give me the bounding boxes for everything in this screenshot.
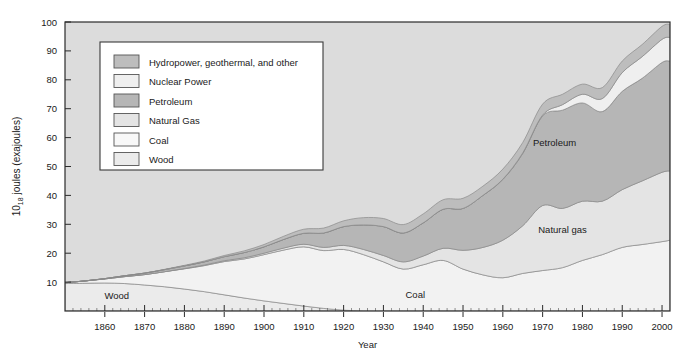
legend-swatch — [114, 94, 139, 107]
legend-label: Wood — [149, 154, 174, 165]
annotation-petroleum: Petroleum — [533, 137, 576, 148]
legend-swatch — [114, 114, 139, 127]
x-tick-label: 1930 — [373, 321, 394, 332]
x-tick-label: 1870 — [134, 321, 155, 332]
x-tick-label: 1980 — [572, 321, 593, 332]
x-tick-label: 1910 — [293, 321, 314, 332]
x-tick-label: 1900 — [253, 321, 274, 332]
y-tick-label: 50 — [46, 161, 57, 172]
y-tick-label: 80 — [46, 74, 57, 85]
y-tick-label: 100 — [41, 17, 57, 28]
y-axis-title-exponent: 18 — [17, 197, 24, 205]
y-tick-label: 60 — [46, 132, 57, 143]
y-tick-label: 40 — [46, 190, 57, 201]
y-axis-title-rest: joules (exajoules) — [11, 117, 22, 198]
legend-swatch — [114, 75, 139, 88]
x-tick-label: 1950 — [452, 321, 473, 332]
x-axis-title: Year — [358, 339, 377, 350]
y-tick-label: 90 — [46, 45, 57, 56]
legend-item[interactable]: Natural Gas — [114, 114, 200, 127]
legend-label: Nuclear Power — [149, 76, 211, 87]
annotation-wood: Wood — [104, 290, 129, 301]
x-tick-label: 1880 — [174, 321, 195, 332]
chart-page: 1020304050607080901001860187018801890190… — [0, 0, 694, 358]
legend-swatch — [114, 133, 139, 146]
legend-label: Coal — [149, 135, 169, 146]
x-tick-label: 1960 — [492, 321, 513, 332]
x-tick-label: 1940 — [413, 321, 434, 332]
y-tick-label: 30 — [46, 219, 57, 230]
annotation-coal: Coal — [405, 289, 425, 300]
y-axis-title-base: 10 — [11, 205, 22, 217]
legend-label: Petroleum — [149, 96, 192, 107]
legend-swatch — [114, 153, 139, 166]
legend: Hydropower, geothermal, and otherNuclear… — [100, 42, 323, 170]
y-tick-label: 20 — [46, 248, 57, 259]
x-tick-label: 1920 — [333, 321, 354, 332]
y-tick-label: 10 — [46, 277, 57, 288]
legend-swatch — [114, 55, 139, 68]
x-tick-label: 1860 — [94, 321, 115, 332]
legend-item[interactable]: Petroleum — [114, 94, 192, 107]
y-tick-label: 70 — [46, 103, 57, 114]
legend-item[interactable]: Nuclear Power — [114, 75, 211, 88]
legend-label: Hydropower, geothermal, and other — [149, 57, 298, 68]
legend-label: Natural Gas — [149, 115, 200, 126]
annotation-natural-gas: Natural gas — [538, 224, 587, 235]
x-tick-label: 1890 — [214, 321, 235, 332]
x-tick-label: 1970 — [532, 321, 553, 332]
x-tick-label: 2000 — [651, 321, 672, 332]
x-tick-label: 1990 — [612, 321, 633, 332]
energy-consumption-area-chart: 1020304050607080901001860187018801890190… — [0, 0, 694, 358]
